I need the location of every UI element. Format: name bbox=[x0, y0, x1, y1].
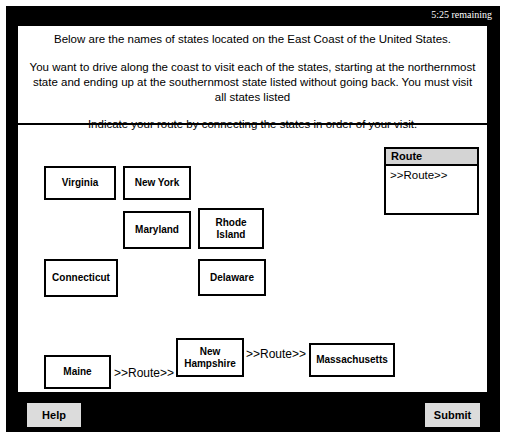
footer-bar: Help Submit bbox=[6, 392, 500, 432]
route-work-area[interactable]: Virginia New York Maryland Rhode Island … bbox=[18, 125, 487, 392]
state-box-maryland[interactable]: Maryland bbox=[123, 211, 191, 249]
content-panel: Below are the names of states located on… bbox=[18, 26, 487, 392]
state-box-maine[interactable]: Maine bbox=[44, 355, 111, 389]
route-panel[interactable]: Route >>Route>> bbox=[384, 147, 479, 215]
instructions-panel: Below are the names of states located on… bbox=[18, 26, 487, 125]
state-box-massachusetts[interactable]: Massachusetts bbox=[309, 343, 395, 377]
timer-bar: 5:25 remaining bbox=[6, 6, 500, 26]
route-panel-title: Route bbox=[386, 149, 477, 166]
help-button[interactable]: Help bbox=[26, 402, 82, 428]
route-connector-new-hampshire-massachusetts[interactable]: >>Route>> bbox=[246, 347, 306, 361]
route-panel-item[interactable]: >>Route>> bbox=[386, 166, 477, 181]
state-box-delaware[interactable]: Delaware bbox=[198, 259, 266, 296]
state-box-new-hampshire[interactable]: New Hampshire bbox=[176, 338, 244, 377]
instruction-line-2: You want to drive along the coast to vis… bbox=[18, 60, 487, 105]
instruction-line-1: Below are the names of states located on… bbox=[18, 32, 487, 47]
application-frame: 5:25 remaining Below are the names of st… bbox=[6, 6, 500, 432]
state-box-rhode-island[interactable]: Rhode Island bbox=[198, 208, 264, 249]
time-remaining-label: 5:25 remaining bbox=[431, 9, 492, 20]
route-connector-maine-new-hampshire[interactable]: >>Route>> bbox=[114, 366, 174, 380]
submit-button[interactable]: Submit bbox=[424, 402, 481, 428]
state-box-connecticut[interactable]: Connecticut bbox=[44, 259, 118, 297]
state-box-new-york[interactable]: New York bbox=[123, 166, 191, 200]
state-box-virginia[interactable]: Virginia bbox=[44, 166, 116, 200]
